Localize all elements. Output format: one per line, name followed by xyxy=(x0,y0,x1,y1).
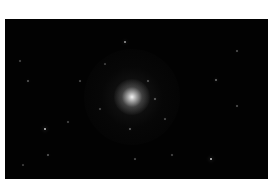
star xyxy=(171,154,172,155)
star-cluster-photo xyxy=(5,19,268,179)
star xyxy=(154,98,156,100)
star xyxy=(99,108,100,109)
star xyxy=(67,121,68,122)
star xyxy=(134,158,135,159)
star xyxy=(124,41,126,43)
star xyxy=(44,128,47,131)
cluster-core xyxy=(114,79,150,115)
star xyxy=(79,80,80,81)
star xyxy=(215,79,217,81)
star xyxy=(236,50,238,52)
star xyxy=(19,60,20,61)
star xyxy=(47,154,49,156)
star xyxy=(210,158,213,161)
star xyxy=(27,80,29,82)
star xyxy=(236,105,238,107)
star xyxy=(164,118,165,119)
star xyxy=(147,80,148,81)
star xyxy=(22,164,23,165)
star xyxy=(129,128,131,130)
star xyxy=(104,63,105,64)
